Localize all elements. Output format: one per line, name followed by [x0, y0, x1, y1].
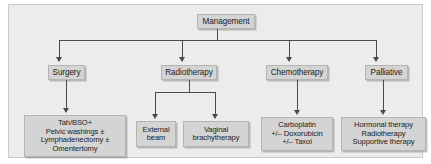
node-vaginal-brachytherapy-lines: Vaginalbrachytherapy: [184, 126, 248, 143]
connector-drop-vaginal-brachytherapy: [215, 92, 216, 114]
arrow-to-palliative: [373, 57, 379, 62]
node-vaginal-brachytherapy[interactable]: Vaginalbrachytherapy: [183, 121, 249, 147]
node-palliative-detail-lines: Hormonal therapyRadiotherapySupportive t…: [342, 121, 425, 147]
arrow-to-chemotherapy-detail: [294, 110, 300, 115]
node-palliative[interactable]: Palliative: [365, 65, 408, 80]
connector-drop-radiotherapy: [182, 40, 183, 57]
node-management-label: Management: [198, 17, 254, 26]
connector-level1-bar: [59, 40, 376, 41]
node-text-line: brachytherapy: [186, 134, 246, 143]
node-chemotherapy-label: Chemotherapy: [267, 68, 327, 77]
connector-drop-chemotherapy: [289, 40, 290, 57]
node-palliative-detail[interactable]: Hormonal therapyRadiotherapySupportive t…: [341, 117, 426, 151]
node-external-beam[interactable]: Externalbeam: [136, 121, 176, 147]
node-management[interactable]: Management: [197, 14, 255, 29]
connector-radiotherapy-bar: [155, 92, 215, 93]
node-surgery-label: Surgery: [49, 68, 84, 77]
connector-palliative-to-detail: [383, 80, 384, 110]
node-radiotherapy-label: Radiotherapy: [162, 68, 216, 77]
node-surgery-detail-lines: Tah/BSO+Pelvic washings ±Lymphadenectomy…: [25, 119, 125, 153]
node-text-line: beam: [139, 134, 173, 143]
flowchart-panel: Management Surgery Radiotherapy Chemothe…: [8, 4, 423, 158]
arrow-to-surgery: [56, 57, 62, 62]
node-surgery[interactable]: Surgery: [48, 65, 85, 80]
arrow-to-vaginal-brachytherapy: [212, 114, 218, 119]
node-chemotherapy-detail[interactable]: Carboplatin+/– Doxorubicin+/– Taxol: [261, 117, 333, 151]
node-palliative-label: Palliative: [366, 68, 407, 77]
arrow-to-external-beam: [152, 114, 158, 119]
connector-surgery-to-detail: [66, 80, 67, 108]
node-text-line: Omentertomy: [27, 145, 123, 154]
node-text-line: Supportive therapy: [344, 138, 423, 147]
connector-chemotherapy-to-detail: [297, 80, 298, 110]
connector-radiotherapy-stem: [189, 80, 190, 92]
connector-drop-surgery: [59, 40, 60, 57]
node-external-beam-lines: Externalbeam: [137, 126, 175, 143]
arrow-to-surgery-detail: [63, 108, 69, 113]
arrow-to-palliative-detail: [380, 110, 386, 115]
connector-drop-palliative: [376, 40, 377, 57]
node-surgery-detail[interactable]: Tah/BSO+Pelvic washings ±Lymphadenectomy…: [24, 115, 126, 157]
connector-management-stem: [217, 29, 218, 40]
node-chemotherapy[interactable]: Chemotherapy: [266, 65, 328, 80]
node-chemotherapy-detail-lines: Carboplatin+/– Doxorubicin+/– Taxol: [262, 121, 332, 147]
arrow-to-radiotherapy: [179, 57, 185, 62]
node-text-line: +/– Taxol: [264, 138, 330, 147]
node-radiotherapy[interactable]: Radiotherapy: [161, 65, 217, 80]
arrow-to-chemotherapy: [286, 57, 292, 62]
connector-drop-external-beam: [155, 92, 156, 114]
